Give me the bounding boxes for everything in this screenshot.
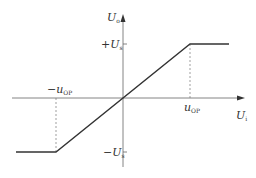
pos-sat-sub: s [120, 44, 123, 51]
neg-sat-text: −U [103, 146, 122, 159]
x-axis-label-sub: i [245, 115, 247, 122]
neg-sat-label: −Us [103, 147, 125, 159]
pos-uop-sub: OP [191, 107, 200, 114]
pos-sat-text: +U [101, 38, 120, 51]
pos-sat-label: +Us [101, 39, 123, 51]
y-axis-label-main: U [107, 11, 116, 24]
pos-uop-label: uOP [184, 102, 200, 114]
neg-uop-text: −u [47, 83, 63, 96]
neg-uop-sub: OP [63, 89, 72, 96]
x-axis-arrow-icon [237, 96, 245, 101]
y-axis-label: Uo [107, 12, 120, 24]
x-axis-label-main: U [236, 109, 245, 122]
y-axis-arrow-icon [121, 14, 126, 22]
transfer-characteristic-diagram [0, 0, 256, 178]
x-axis-label: Ui [236, 110, 247, 122]
neg-uop-label: −uOP [47, 84, 72, 96]
neg-sat-sub: s [122, 152, 125, 159]
y-axis-label-sub: o [116, 17, 120, 24]
